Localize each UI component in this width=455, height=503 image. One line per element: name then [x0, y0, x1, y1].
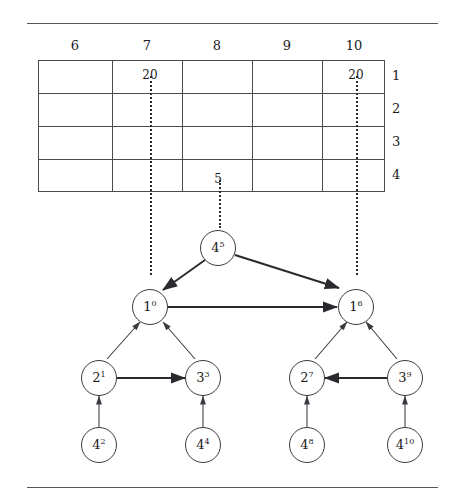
graph-node-3-3[interactable]: 33 [185, 360, 221, 396]
graph-node-1-0[interactable]: 10 [132, 289, 168, 325]
node-label-4-4: 44 [196, 437, 209, 452]
table-hline-4 [38, 191, 385, 192]
table-column-header-10: 10 [319, 38, 389, 54]
dotted-connector-col10 [356, 76, 358, 275]
top-horizontal-rule [27, 23, 438, 24]
table-hline-1 [38, 93, 385, 94]
graph-node-2-7[interactable]: 27 [289, 360, 325, 396]
node-label-3-9: 39 [398, 370, 411, 385]
graph-node-2-1[interactable]: 21 [81, 360, 117, 396]
table-hline-0 [38, 60, 385, 61]
node-label-4-2: 42 [92, 437, 105, 452]
graph-node-4-4[interactable]: 44 [185, 427, 221, 463]
table-row-label-3: 3 [392, 134, 400, 150]
graph-node-1-6[interactable]: 16 [338, 289, 374, 325]
node-label-2-7: 27 [300, 370, 313, 385]
node-label-1-0: 10 [143, 299, 156, 314]
edge-2-1-to-1-0 [107, 322, 140, 359]
edge-3-9-to-1-6 [366, 322, 397, 359]
dotted-connector-col8 [219, 180, 221, 228]
table-row-label-1: 1 [392, 68, 400, 84]
table-row-label-2: 2 [392, 101, 400, 117]
table-column-header-9: 9 [252, 38, 322, 54]
graph-node-3-9[interactable]: 39 [387, 360, 423, 396]
edge-2-7-to-1-6 [315, 322, 347, 359]
graph-node-4-2[interactable]: 42 [81, 427, 117, 463]
edge-4-5-to-1-0 [163, 260, 205, 290]
node-label-1-6: 16 [349, 299, 362, 314]
node-label-2-1: 21 [92, 370, 105, 385]
edge-4-5-to-1-6 [235, 255, 339, 288]
graph-node-4-8[interactable]: 48 [289, 427, 325, 463]
node-label-4-8: 48 [300, 437, 313, 452]
graph-node-4-5[interactable]: 45 [200, 230, 236, 266]
edge-3-3-to-1-0 [163, 322, 195, 359]
node-label-4-10: 410 [396, 437, 414, 452]
table-hline-2 [38, 126, 385, 127]
table-column-header-6: 6 [40, 38, 110, 54]
table-row-label-4: 4 [392, 167, 400, 183]
node-label-3-3: 33 [196, 370, 209, 385]
table-column-header-8: 8 [182, 38, 252, 54]
node-label-4-5: 45 [211, 240, 224, 255]
dotted-connector-col7 [150, 76, 152, 275]
table-column-header-7: 7 [112, 38, 182, 54]
graph-node-4-10[interactable]: 410 [387, 427, 423, 463]
table-cell-r4c8: 5 [198, 172, 238, 186]
figure-container: 6 7 8 9 10 1 2 3 4 20 20 5 [0, 0, 455, 503]
bottom-horizontal-rule [27, 487, 438, 488]
table-hline-3 [38, 159, 385, 160]
